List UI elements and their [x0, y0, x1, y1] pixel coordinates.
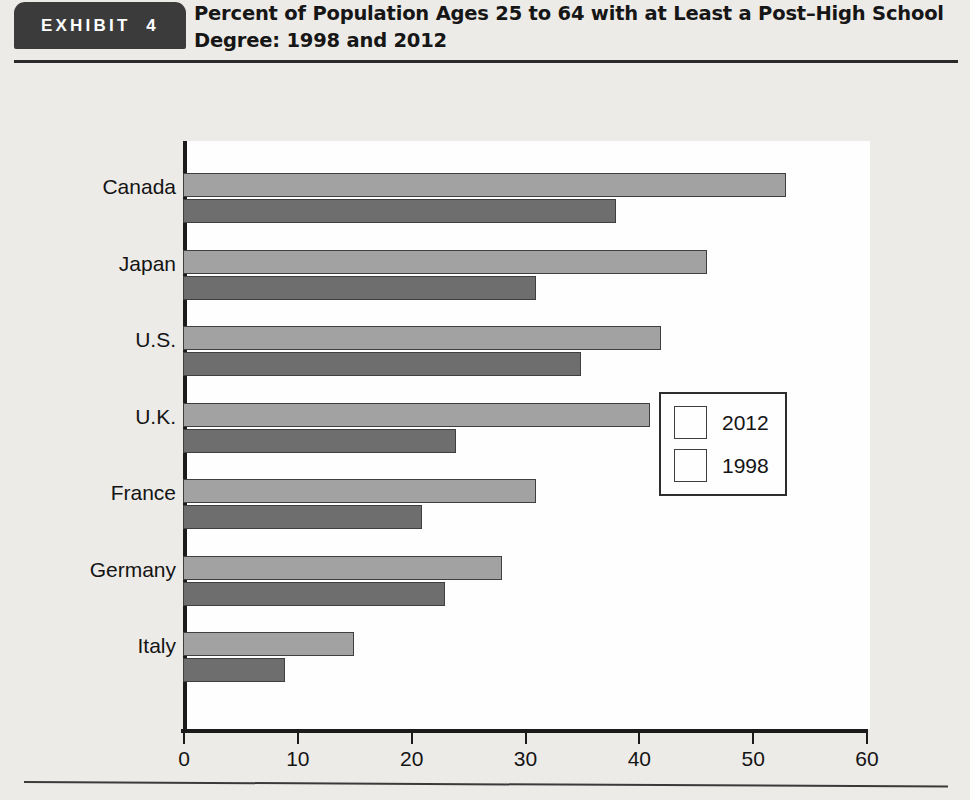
x-tick-label-0: 0	[178, 747, 190, 771]
bar-canada-2012	[183, 173, 786, 197]
x-tick-mark-40	[638, 733, 640, 744]
x-tick-label-20: 20	[400, 747, 423, 771]
exhibit-title-line-2: Degree: 1998 and 2012	[194, 27, 964, 54]
exhibit-title-line-1: Percent of Population Ages 25 to 64 with…	[194, 0, 964, 27]
bar-canada-1998	[183, 199, 616, 223]
bar-germany-1998	[183, 582, 445, 606]
header-divider-rule	[14, 60, 958, 63]
bar-germany-2012	[183, 556, 502, 580]
exhibit-title: Percent of Population Ages 25 to 64 with…	[194, 0, 964, 54]
y-axis-label-us: U.S.	[16, 328, 176, 352]
bar-italy-1998	[183, 658, 285, 682]
chart-legend: 2012 1998	[659, 392, 787, 496]
y-axis-label-germany: Germany	[16, 558, 176, 582]
exhibit-header: EXHIBIT 4 Percent of Population Ages 25 …	[0, 0, 970, 63]
x-tick-label-40: 40	[628, 747, 651, 771]
bar-us-1998	[183, 352, 581, 376]
legend-swatch-2012	[674, 406, 707, 439]
legend-swatch-1998	[674, 449, 707, 482]
x-tick-mark-0	[183, 733, 185, 744]
x-tick-label-60: 60	[855, 747, 878, 771]
legend-item-2012: 2012	[674, 406, 769, 439]
y-axis-label-france: France	[16, 481, 176, 505]
bar-france-1998	[183, 505, 422, 529]
legend-label-1998: 1998	[722, 454, 769, 478]
legend-label-2012: 2012	[722, 411, 769, 435]
bar-france-2012	[183, 479, 536, 503]
bar-italy-2012	[183, 632, 354, 656]
x-tick-mark-10	[297, 733, 299, 744]
x-tick-mark-60	[866, 733, 868, 744]
y-axis-label-uk: U.K.	[16, 405, 176, 429]
bar-us-2012	[183, 326, 661, 350]
footer-divider-rule	[24, 781, 948, 788]
x-tick-mark-50	[752, 733, 754, 744]
x-tick-label-30: 30	[514, 747, 537, 771]
exhibit-number-badge: EXHIBIT 4	[14, 2, 186, 49]
bar-chart-figure: CanadaJapanU.S.U.K.FranceGermanyItaly 01…	[0, 66, 970, 766]
bar-uk-2012	[183, 403, 650, 427]
y-axis-label-canada: Canada	[16, 175, 176, 199]
bar-japan-1998	[183, 276, 536, 300]
y-axis-label-italy: Italy	[16, 634, 176, 658]
y-axis-label-japan: Japan	[16, 252, 176, 276]
x-tick-mark-30	[525, 733, 527, 744]
bar-uk-1998	[183, 429, 456, 453]
x-tick-label-50: 50	[741, 747, 764, 771]
exhibit-badge-label: EXHIBIT 4	[41, 16, 159, 36]
legend-item-1998: 1998	[674, 449, 769, 482]
x-tick-label-10: 10	[286, 747, 309, 771]
x-tick-mark-20	[411, 733, 413, 744]
bar-japan-2012	[183, 250, 707, 274]
